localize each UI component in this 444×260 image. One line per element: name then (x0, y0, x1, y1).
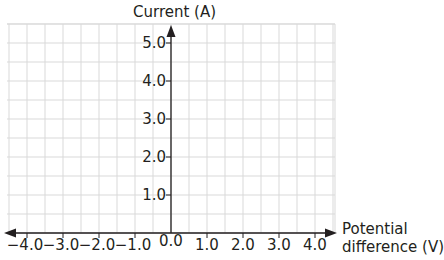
y-tick-label: 1.0 (142, 188, 166, 203)
x-tick-label: −3.0 (43, 238, 79, 253)
x-axis-label-line2: difference (V) (342, 240, 444, 255)
x-tick-label: 1.0 (195, 238, 219, 253)
y-tick-label: 2.0 (142, 150, 166, 165)
y-tick-label: 4.0 (142, 74, 166, 89)
x-tick-label: 4.0 (303, 238, 327, 253)
y-tick-label: 5.0 (142, 36, 166, 51)
y-axis-label: Current (A) (133, 5, 216, 20)
x-axis-label-line1: Potential (342, 222, 408, 237)
axes (4, 25, 337, 238)
x-tick-label: −4.0 (7, 238, 43, 253)
x-tick-label: −2.0 (79, 238, 115, 253)
y-tick-label: 3.0 (142, 112, 166, 127)
x-tick-label: 3.0 (267, 238, 291, 253)
x-tick-label: −1.0 (115, 238, 151, 253)
x-tick-label: 0.0 (159, 234, 183, 249)
y-axis-up-arrow-icon (167, 25, 176, 37)
x-tick-label: 2.0 (231, 238, 255, 253)
